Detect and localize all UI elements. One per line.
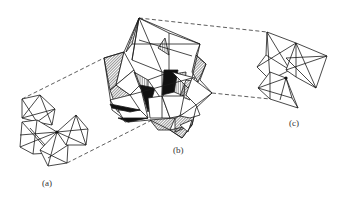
diagram-svg xyxy=(0,0,344,203)
cluster-c xyxy=(257,32,327,108)
connector-a-top xyxy=(22,58,104,99)
connector-c-bottom xyxy=(212,93,270,99)
cluster-a xyxy=(20,95,88,166)
shared-vertex-a xyxy=(55,130,58,133)
panel-label-c: (c) xyxy=(289,118,299,128)
figure-canvas: (a) (b) (c) xyxy=(0,0,344,203)
cluster-b xyxy=(104,18,212,138)
panel-label-a: (a) xyxy=(42,178,52,188)
shared-vertex-c xyxy=(284,76,287,79)
panel-label-b: (b) xyxy=(173,145,184,155)
